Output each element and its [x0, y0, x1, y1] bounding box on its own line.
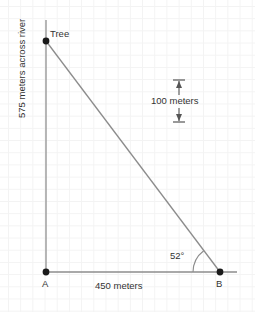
arrow-head-up-icon [176, 81, 182, 88]
label-vertex-a: A [42, 279, 48, 289]
point-a [43, 269, 50, 276]
label-base-length: 450 meters [95, 281, 143, 291]
point-tree [43, 38, 50, 45]
point-b [217, 269, 224, 276]
diagram-canvas: Tree A B 450 meters 575 meters across ri… [0, 0, 255, 312]
label-vertex-b: B [216, 279, 222, 289]
label-vertical-length: 575 meters across river [17, 0, 27, 118]
label-arrow-measure: 100 meters [151, 96, 199, 106]
label-tree: Tree [50, 29, 69, 39]
hypotenuse-line [46, 41, 220, 272]
label-angle-measure: 52° [170, 251, 184, 261]
angle-arc [193, 251, 204, 272]
arrow-head-down-icon [176, 114, 182, 121]
triangle-figure [0, 0, 255, 312]
